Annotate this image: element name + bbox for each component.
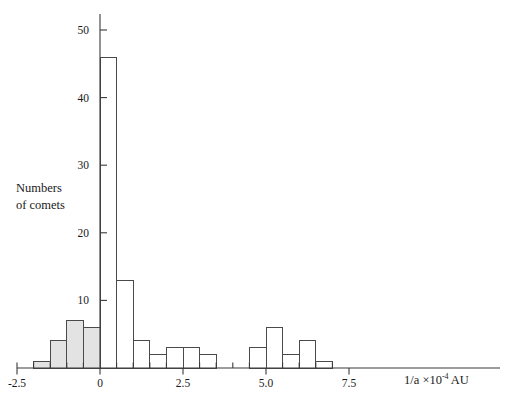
x-tick-labels: -2.502.55.07.5 xyxy=(8,377,357,389)
y-axis-label-line2: of comets xyxy=(16,198,65,212)
chart-canvas: -2.502.55.07.5 1020304050 Numbers of com… xyxy=(0,0,508,400)
x-tick-label: 5.0 xyxy=(259,377,274,389)
histogram-bar xyxy=(249,348,266,368)
histogram-bar xyxy=(117,280,134,368)
histogram-bar xyxy=(266,327,283,368)
x-tick-label: -2.5 xyxy=(8,377,26,389)
histogram-bar xyxy=(67,321,84,368)
histogram-bar xyxy=(316,361,333,368)
histogram-bar xyxy=(34,361,51,368)
histogram-bar xyxy=(183,348,200,368)
x-axis-label-unit: AU xyxy=(451,373,469,387)
histogram-bar xyxy=(100,57,117,368)
histogram-bar xyxy=(133,341,150,368)
histogram-bar xyxy=(283,354,300,368)
histogram-bar xyxy=(166,348,183,368)
histogram-bar xyxy=(50,341,67,368)
y-tick-label: 20 xyxy=(78,227,90,239)
x-axis-label: 1/a ×10-4AU xyxy=(404,372,469,387)
x-tick-label: 2.5 xyxy=(176,377,191,389)
y-tick-label: 30 xyxy=(78,159,90,171)
y-tick-labels: 1020304050 xyxy=(78,24,90,306)
histogram-bar xyxy=(83,327,100,368)
histogram-bar xyxy=(299,341,316,368)
bars-group xyxy=(34,57,333,368)
y-tick-label: 50 xyxy=(78,24,90,36)
histogram-bar xyxy=(200,354,217,368)
y-tick-label: 40 xyxy=(78,92,90,104)
x-axis-label-exponent: -4 xyxy=(442,372,449,381)
histogram-figure: -2.502.55.07.5 1020304050 Numbers of com… xyxy=(0,0,508,400)
histogram-bar xyxy=(150,354,167,368)
x-tick-label: 7.5 xyxy=(342,377,357,389)
x-axis-label-base: 1/a ×10 xyxy=(404,373,442,387)
x-tick-label: 0 xyxy=(97,377,103,389)
y-axis-label-line1: Numbers xyxy=(16,181,62,195)
y-tick-label: 10 xyxy=(78,294,90,306)
